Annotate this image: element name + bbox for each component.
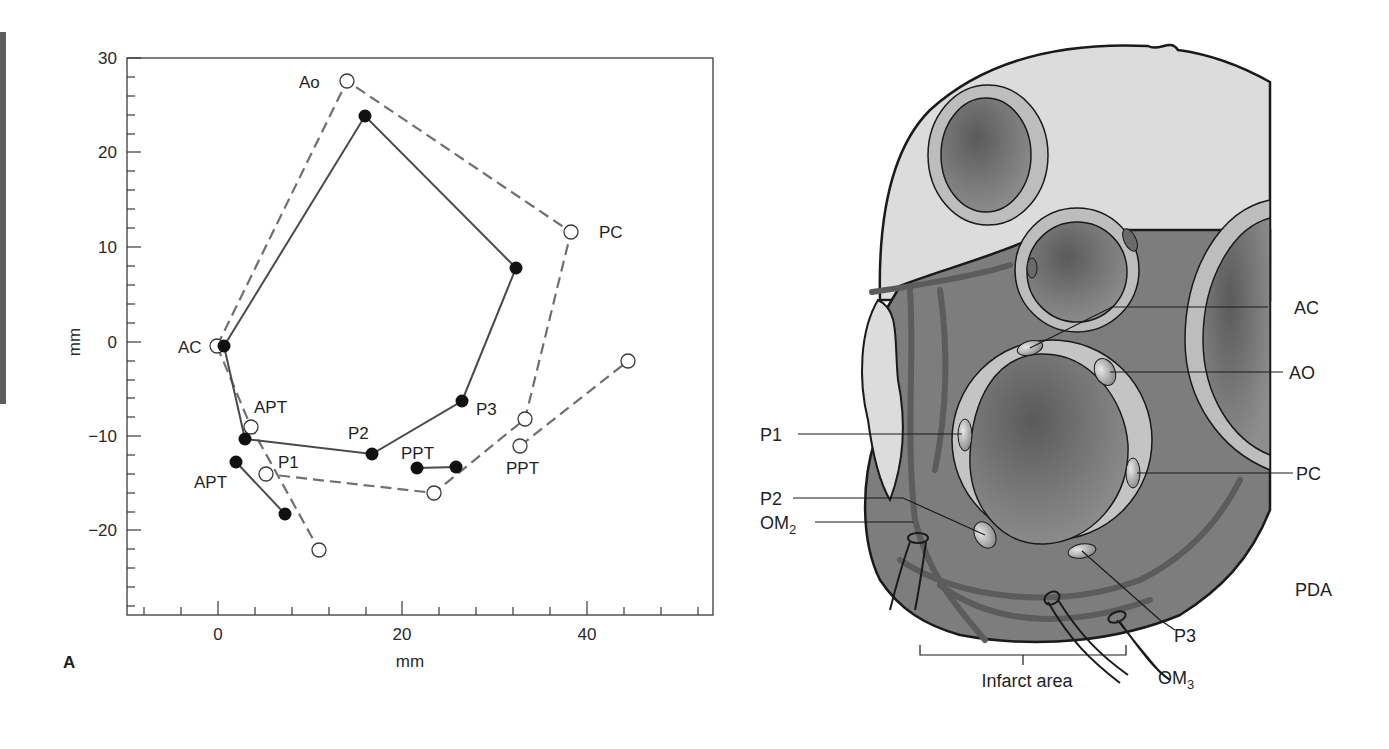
y-tick-label: 10 bbox=[98, 238, 117, 257]
heart-valve-illustration: AC AO PC PDA P1 P2 P3 OM2 OM3 Infarct ar… bbox=[760, 40, 1332, 705]
label-ao: AO bbox=[1289, 363, 1315, 383]
point-label-p1: P1 bbox=[278, 453, 299, 472]
figure-canvas: 30 20 10 0 −10 −20 0 20 40 mm mm A bbox=[0, 0, 1389, 749]
x-axis-ticks bbox=[144, 601, 698, 615]
label-p2: P2 bbox=[760, 489, 782, 509]
y-axis-title: mm bbox=[65, 328, 84, 356]
panel-label: A bbox=[63, 653, 75, 672]
x-tick-label: 20 bbox=[393, 625, 412, 644]
label-ac: AC bbox=[1294, 298, 1319, 318]
label-p1: P1 bbox=[760, 425, 782, 445]
y-tick-label: −20 bbox=[88, 521, 117, 540]
point-label-apt-filled: APT bbox=[194, 473, 227, 492]
point-label-p3: P3 bbox=[476, 400, 497, 419]
valve-orifice-top-left bbox=[941, 98, 1031, 212]
x-tick-label: 0 bbox=[213, 625, 222, 644]
point-label-ao: Ao bbox=[299, 73, 320, 92]
label-pda: PDA bbox=[1295, 580, 1332, 600]
y-tick-label: 0 bbox=[108, 333, 117, 352]
x-axis-title: mm bbox=[396, 652, 424, 671]
chart-panel: 30 20 10 0 −10 −20 0 20 40 mm mm A bbox=[63, 49, 713, 672]
open-markers bbox=[210, 74, 635, 557]
label-om2: OM2 bbox=[760, 513, 796, 537]
point-label-apt-open: APT bbox=[254, 398, 287, 417]
point-label-ppt-filled: PPT bbox=[401, 444, 434, 463]
y-tick-label: −10 bbox=[88, 427, 117, 446]
y-tick-label: 20 bbox=[98, 143, 117, 162]
label-p3: P3 bbox=[1174, 626, 1196, 646]
x-tick-label: 40 bbox=[578, 625, 597, 644]
y-axis-ticks bbox=[127, 58, 141, 606]
plot-frame bbox=[127, 58, 713, 615]
y-tick-label: 30 bbox=[98, 49, 117, 68]
point-label-pc: PC bbox=[599, 223, 623, 242]
label-infarct-area: Infarct area bbox=[981, 671, 1073, 691]
dashed-series bbox=[217, 81, 628, 550]
point-label-ppt-open: PPT bbox=[506, 459, 539, 478]
label-pc: PC bbox=[1296, 464, 1321, 484]
point-label-p2: P2 bbox=[348, 424, 369, 443]
point-label-ac: AC bbox=[178, 338, 202, 357]
